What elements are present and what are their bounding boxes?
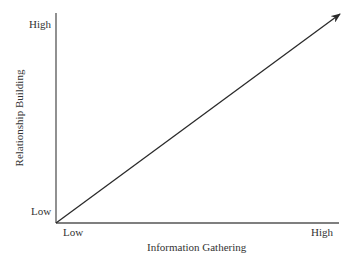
y-tick-high: High	[29, 18, 51, 30]
x-tick-high: High	[311, 226, 333, 238]
trend-arrow	[56, 14, 340, 223]
diagram-canvas	[0, 0, 356, 263]
y-tick-low: Low	[31, 205, 51, 217]
x-axis-label: Information Gathering	[147, 241, 246, 253]
x-tick-low: Low	[63, 226, 83, 238]
y-axis-label: Relationship Building	[13, 70, 25, 167]
